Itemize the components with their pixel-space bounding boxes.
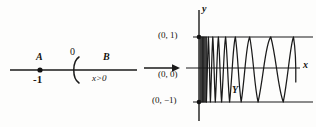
set-b-label: B xyxy=(103,52,110,62)
curve-y-label: Y xyxy=(232,85,238,95)
figure-canvas xyxy=(0,0,316,127)
curve-accumulation-band xyxy=(200,37,206,102)
boundary-zero-label: 0 xyxy=(70,47,75,57)
point-0-0-label: (0, 0) xyxy=(158,70,178,79)
set-a-label: A xyxy=(36,52,43,62)
point-0-1-label: (0, 1) xyxy=(158,31,178,40)
math-figure: A -1 0 B x>0 y x (0, 1) (0, 0) (0, −1) Y xyxy=(0,0,316,127)
y-axis-label: y xyxy=(202,4,206,14)
curve-path xyxy=(206,37,295,102)
x-axis-label: x xyxy=(303,60,308,70)
number-line-group xyxy=(10,57,137,83)
closed-point-marker xyxy=(37,67,42,72)
sine-curve-group xyxy=(200,37,296,102)
point-0-minus-1-label: (0, −1) xyxy=(152,96,177,105)
set-b-condition-label: x>0 xyxy=(92,74,107,83)
point-minus-one-label: -1 xyxy=(33,74,42,85)
